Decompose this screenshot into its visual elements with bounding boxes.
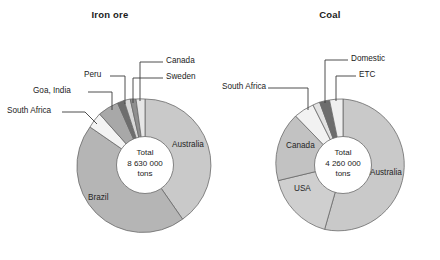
slice-label-australia: Australia xyxy=(370,168,402,177)
slice-label-canada: Canada xyxy=(286,141,315,150)
center-label-iron-ore: Total 8 630 000 tons xyxy=(110,148,180,180)
leader-line-domestic xyxy=(325,60,348,103)
center-total-word: Total xyxy=(308,148,378,159)
slice-label-australia: Australia xyxy=(172,140,204,149)
center-total-unit: tons xyxy=(110,169,180,180)
center-label-coal: Total 4 260 000 tons xyxy=(308,148,378,180)
leader-line-canada xyxy=(140,62,163,101)
slice-label-usa: USA xyxy=(294,184,311,193)
callout-label-peru: Peru xyxy=(84,70,101,79)
callout-label-canada: Canada xyxy=(166,56,195,65)
callout-label-south-africa: South Africa xyxy=(222,82,266,91)
callout-label-goa-india: Goa, India xyxy=(33,86,71,95)
pie-svg-coal xyxy=(220,0,440,260)
center-total-word: Total xyxy=(110,148,180,159)
leader-line-south-africa xyxy=(62,112,97,124)
slice-label-brazil: Brazil xyxy=(88,193,108,202)
center-total-value: 8 630 000 xyxy=(110,159,180,170)
callout-label-etc: ETC xyxy=(359,70,375,79)
center-total-unit: tons xyxy=(308,169,378,180)
chart-panel-iron-ore: Iron ore xyxy=(0,0,220,260)
callout-label-sweden: Sweden xyxy=(166,72,196,81)
callout-label-south-africa: South Africa xyxy=(7,106,51,115)
center-total-value: 4 260 000 xyxy=(308,159,378,170)
chart-panel-coal: Coal xyxy=(220,0,440,260)
figure-two-pie-charts: Iron ore xyxy=(0,0,440,260)
pie-svg-iron-ore xyxy=(0,0,220,260)
callout-label-domestic: Domestic xyxy=(351,54,385,63)
leader-line-etc xyxy=(336,76,356,101)
leader-line-south-africa xyxy=(268,88,308,110)
